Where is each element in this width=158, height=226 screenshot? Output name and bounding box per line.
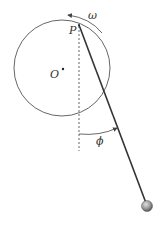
phi-label: ϕ xyxy=(96,135,104,148)
point-p-dot xyxy=(78,24,80,26)
pendulum-on-rotating-disk-diagram: ω P O ϕ xyxy=(0,0,158,226)
center-dot xyxy=(62,68,64,70)
point-p-label: P xyxy=(68,24,77,37)
omega-label: ω xyxy=(88,9,97,22)
angle-arc xyxy=(79,128,117,134)
pendulum-rod xyxy=(79,25,146,203)
center-o-label: O xyxy=(50,68,59,81)
pendulum-bob xyxy=(142,201,153,212)
